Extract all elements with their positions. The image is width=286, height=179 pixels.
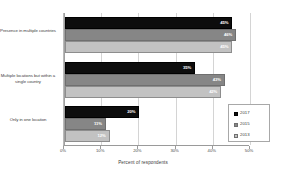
plot-area: 45%46%45%35%43%42%20%11%12% <box>63 13 249 146</box>
x-tick-mark <box>212 146 213 149</box>
legend-label-2015: 2015 <box>240 122 250 126</box>
bar-2013-1[interactable]: 42% <box>65 86 221 98</box>
category-label: Presence in multiple countries <box>0 28 57 34</box>
category-label: Only in one location <box>0 117 57 123</box>
bar-2013-2[interactable]: 12% <box>65 130 110 142</box>
x-tick-mark <box>175 146 176 149</box>
bar-group: 45%46%45% <box>65 17 249 53</box>
bar-group: 35%43%42% <box>65 62 249 98</box>
bar-value-label: 35% <box>183 65 191 69</box>
bar-2017-1[interactable]: 35% <box>65 62 195 74</box>
x-tick-mark <box>100 146 101 149</box>
bar-value-label: 20% <box>127 110 135 114</box>
x-tick-mark <box>137 146 138 149</box>
bar-2017-0[interactable]: 45% <box>65 17 232 29</box>
category-label: Multiple locations but within a single c… <box>0 73 57 85</box>
legend-item-2013[interactable]: 2013 <box>234 130 269 141</box>
bar-value-label: 46% <box>224 33 232 37</box>
bar-value-label: 45% <box>220 45 228 49</box>
legend-item-2017[interactable]: 2017 <box>234 108 269 119</box>
legend-swatch-icon-2017 <box>234 112 238 116</box>
bar-value-label: 12% <box>98 134 106 138</box>
bar-value-label: 11% <box>94 122 102 126</box>
legend: 2017 2015 2013 <box>228 104 270 142</box>
legend-label-2017: 2017 <box>240 111 250 115</box>
bar-2013-0[interactable]: 45% <box>65 41 232 53</box>
bar-value-label: 45% <box>220 21 228 25</box>
bar-chart: 45%46%45%35%43%42%20%11%12% Presence in … <box>0 0 286 179</box>
bar-2015-2[interactable]: 11% <box>65 118 106 130</box>
bar-value-label: 43% <box>213 77 221 81</box>
x-tick-mark <box>63 146 64 149</box>
bar-2017-2[interactable]: 20% <box>65 106 139 118</box>
bar-2015-0[interactable]: 46% <box>65 29 236 41</box>
legend-item-2015[interactable]: 2015 <box>234 119 269 130</box>
bar-value-label: 42% <box>209 89 217 93</box>
legend-swatch-icon-2013 <box>234 134 238 138</box>
legend-swatch-icon-2015 <box>234 123 238 127</box>
bar-group: 20%11%12% <box>65 106 249 142</box>
x-tick-mark <box>249 146 250 149</box>
legend-label-2013: 2013 <box>240 133 250 137</box>
x-axis-title: Percent of respondents <box>0 160 286 165</box>
bar-2015-1[interactable]: 43% <box>65 74 225 86</box>
